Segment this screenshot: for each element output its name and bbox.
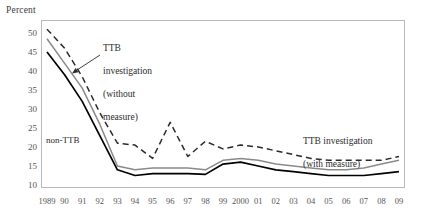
x-axis-tick-90: 90: [57, 196, 73, 206]
y-axis-tick-50: 50: [13, 28, 37, 38]
x-axis-tick-96: 96: [162, 196, 178, 206]
y-axis-title: Percent: [6, 5, 36, 15]
y-axis-tick-20: 20: [13, 142, 37, 152]
x-axis-tick-92: 92: [92, 196, 108, 206]
x-axis-tick-07: 07: [356, 196, 372, 206]
y-axis-tick-10: 10: [13, 180, 37, 190]
x-axis-tick-08: 08: [373, 196, 389, 206]
y-axis-tick-45: 45: [13, 47, 37, 57]
annotation-non-ttb: non-TTB: [46, 135, 80, 145]
annotation-line-2: investigation: [103, 66, 152, 78]
annotation-line-4: measure): [103, 112, 152, 124]
x-axis-tick-93: 93: [109, 196, 125, 206]
annotation-ttb-without-measure: TTB investigation (without measure): [103, 31, 152, 135]
y-axis-tick-35: 35: [13, 85, 37, 95]
x-axis-tick-04: 04: [303, 196, 319, 206]
x-axis-tick-05: 05: [321, 196, 337, 206]
annotation-ttb-with-measure: TTB investigation (with measure): [303, 124, 372, 182]
y-axis-tick-30: 30: [13, 104, 37, 114]
y-axis-tick-25: 25: [13, 123, 37, 133]
x-axis-tick-03: 03: [285, 196, 301, 206]
annotation-line-3: (without: [103, 89, 152, 101]
x-axis-tick-94: 94: [127, 196, 143, 206]
x-axis-tick-09: 09: [391, 196, 407, 206]
annotation-line-2: (with measure): [303, 159, 372, 171]
x-axis-tick-98: 98: [197, 196, 213, 206]
x-axis-tick-01: 01: [250, 196, 266, 206]
x-axis-tick-06: 06: [338, 196, 354, 206]
x-axis-tick-91: 91: [74, 196, 90, 206]
x-axis-tick-95: 95: [145, 196, 161, 206]
y-axis-tick-15: 15: [13, 161, 37, 171]
x-axis-tick-97: 97: [180, 196, 196, 206]
annotation-line-1: TTB: [103, 43, 152, 55]
annotation-line-1: TTB investigation: [303, 136, 372, 148]
x-axis-tick-02: 02: [268, 196, 284, 206]
y-axis-tick-40: 40: [13, 66, 37, 76]
chart-figure: Percent 504540353025201510 1989909192939…: [0, 0, 425, 219]
